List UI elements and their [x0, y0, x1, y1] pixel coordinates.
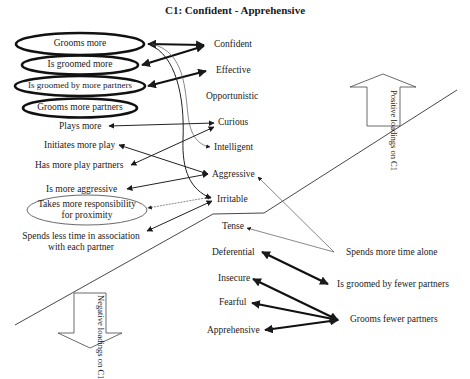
behaviour-line: for proximity — [27, 210, 147, 221]
arrow-label-line: on C1 — [389, 150, 399, 171]
trait-insecure: Insecure — [218, 273, 250, 284]
trait-tense: Tense — [222, 221, 244, 232]
trait-deferential: Deferential — [212, 247, 255, 258]
trait-confident: Confident — [214, 39, 252, 50]
arrow-label-line: Positive — [389, 90, 399, 117]
trait-irritable: Irritable — [217, 194, 248, 205]
behaviour-plays-more: Plays more — [59, 121, 101, 132]
behaviour-spends-less-time: Spends less time in association with eac… — [17, 231, 145, 253]
trait-fearful: Fearful — [219, 297, 246, 308]
behaviour-is-groomed-by-fewer-partners: Is groomed by fewer partners — [337, 279, 449, 290]
behaviour-line: Spends less time in association — [17, 231, 145, 242]
arrow-label-line: on C1 — [96, 359, 106, 379]
negative-loadings-label: Negative loadings on C1 — [75, 295, 105, 333]
arrow-label-line: loadings — [96, 328, 106, 357]
arrow-label-line: loadings — [389, 120, 399, 149]
behaviour-takes-more-responsibility: Takes more responsibility for proximity — [27, 199, 147, 221]
behaviour-grooms-more: Grooms more — [16, 38, 144, 49]
trait-aggressive: Aggressive — [212, 169, 255, 180]
behaviour-line: Takes more responsibility — [27, 199, 147, 210]
behaviour-spends-more-time-alone: Spends more time alone — [346, 247, 438, 258]
behaviour-has-more-play-partners: Has more play partners — [35, 160, 123, 171]
behaviour-line: with each partner — [17, 242, 145, 253]
diagram-title: C1: Confident - Apprehensive — [0, 4, 470, 16]
bold-links — [142, 44, 338, 330]
behaviour-grooms-fewer-partners: Grooms fewer partners — [350, 314, 438, 325]
behaviour-initiates-more-play: Initiates more play — [44, 140, 115, 151]
trait-apprehensive: Apprehensive — [207, 325, 260, 336]
behaviour-is-groomed-more: Is groomed more — [22, 59, 138, 70]
trait-opportunistic: Opportunistic — [206, 91, 258, 102]
trait-effective: Effective — [216, 65, 251, 76]
positive-loadings-label: Positive loadings on C1 — [368, 90, 398, 126]
arrow-label-line: Negative — [96, 295, 106, 326]
trait-intelligent: Intelligent — [214, 142, 253, 153]
behaviour-is-groomed-by-more-partners: Is groomed by more partners — [15, 80, 145, 91]
behaviour-grooms-more-partners: Grooms more partners — [23, 102, 137, 113]
behaviour-is-more-aggressive: Is more aggressive — [46, 184, 117, 195]
trait-curious: Curious — [218, 117, 248, 128]
